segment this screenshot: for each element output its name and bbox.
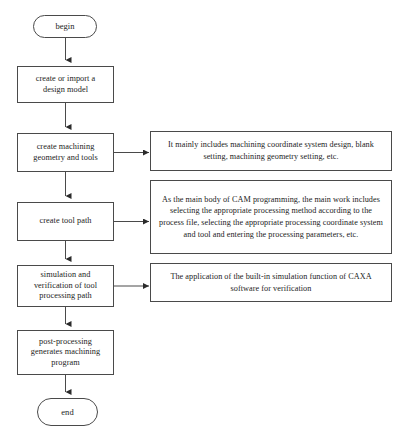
- note-text: As the main body of CAM programming, the…: [157, 194, 385, 241]
- flow-step-label: create machining geometry and tools: [18, 142, 113, 163]
- flow-step-label: create or import a design model: [18, 74, 113, 95]
- flow-step-post-processing: post-processing generates machining prog…: [17, 330, 114, 375]
- note-text: The application of the built-in simulati…: [157, 271, 385, 294]
- note-text: It mainly includes machining coordinate …: [157, 139, 385, 162]
- flow-step-label: post-processing generates machining prog…: [18, 337, 113, 369]
- note-tool-path: As the main body of CAM programming, the…: [150, 180, 392, 254]
- flow-step-label: create tool path: [18, 216, 113, 227]
- note-simulation: The application of the built-in simulati…: [150, 263, 392, 302]
- flow-end-label: end: [38, 407, 97, 418]
- flow-step-design-model: create or import a design model: [17, 66, 114, 103]
- flow-step-simulation: simulation and verification of tool proc…: [17, 265, 114, 307]
- flow-start-label: begin: [34, 21, 96, 32]
- flowchart-canvas: begin create or import a design model cr…: [0, 0, 406, 432]
- flow-step-label: simulation and verification of tool proc…: [18, 270, 113, 302]
- flow-start-begin: begin: [33, 15, 97, 38]
- flow-step-machining-geometry: create machining geometry and tools: [17, 133, 114, 172]
- note-machining-geometry: It mainly includes machining coordinate …: [150, 131, 392, 171]
- flow-step-tool-path: create tool path: [17, 202, 114, 241]
- flow-end-terminal: end: [37, 398, 98, 426]
